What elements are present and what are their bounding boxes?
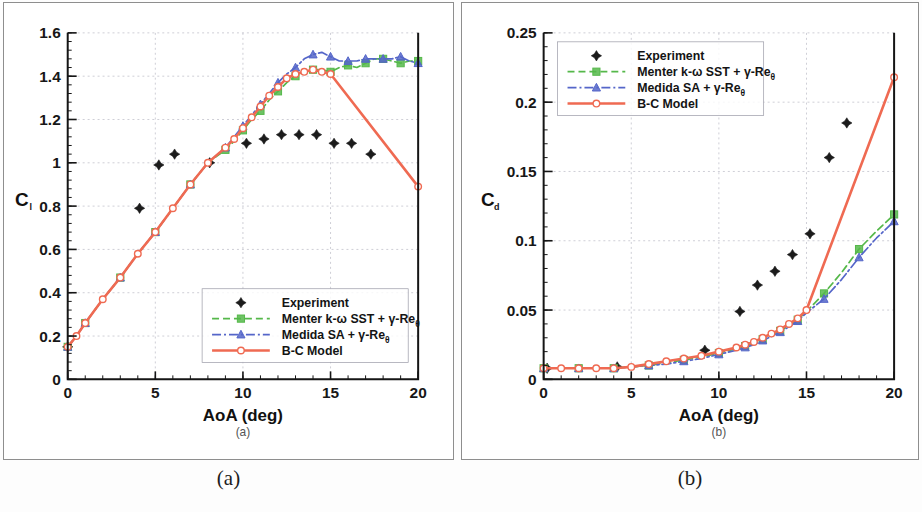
x-axis-title: AoA (deg): [679, 406, 759, 425]
y-tick-label: 0.6: [39, 241, 61, 258]
y-tick-label: 1.6: [39, 24, 61, 41]
x-tick-label: 15: [798, 384, 816, 401]
chart-legend: ExperimentMenter k-ω SST + γ-ReθMedida S…: [558, 42, 776, 116]
y-tick-label: 0.15: [507, 163, 537, 180]
x-tick-label: 0: [539, 384, 548, 401]
panel-subcaption: (b): [712, 425, 727, 439]
y-tick-label: 0.4: [39, 284, 61, 301]
svg-text:l: l: [30, 202, 32, 212]
y-tick-label: 0.1: [515, 232, 537, 249]
y-tick-label: 1: [52, 154, 61, 171]
x-tick-label: 5: [151, 384, 160, 401]
y-tick-label: 0: [528, 371, 537, 388]
y-tick-label: 0: [52, 371, 61, 388]
chart-legend: ExperimentMenter k-ω SST + γ-ReθMedida S…: [202, 289, 420, 363]
y-axis-title: Cd: [481, 189, 500, 212]
legend-label: B-C Model: [637, 97, 698, 111]
legend-label: B-C Model: [282, 344, 343, 358]
y-axis-title: Cl: [15, 189, 32, 212]
chart-panel-b: 0510152000.050.10.150.20.25AoA (deg)Cd(b…: [461, 2, 919, 460]
x-tick-label: 10: [234, 384, 251, 401]
y-tick-label: 1.2: [39, 111, 60, 128]
figure-caption-a: (a): [3, 466, 454, 491]
figure-sheet: 0510152000.20.40.60.811.21.41.6AoA (deg)…: [0, 0, 922, 512]
y-tick-label: 0.05: [507, 302, 537, 319]
y-tick-label: 0.2: [515, 94, 536, 111]
x-tick-label: 15: [322, 384, 340, 401]
figure-caption-b: (b): [461, 466, 919, 491]
chart-panel-a: 0510152000.20.40.60.811.21.41.6AoA (deg)…: [3, 2, 454, 460]
y-tick-label: 0.2: [39, 328, 60, 345]
x-tick-label: 0: [63, 384, 72, 401]
svg-text:C: C: [15, 189, 29, 210]
panel-subcaption: (a): [236, 425, 251, 439]
drag-coefficient-chart: 0510152000.050.10.150.20.25AoA (deg)Cd(b…: [462, 3, 918, 459]
plot-area-a: 0510152000.20.40.60.811.21.41.6AoA (deg)…: [4, 3, 453, 459]
svg-text:C: C: [481, 189, 495, 210]
x-axis-title: AoA (deg): [203, 406, 283, 425]
legend-label: Experiment: [282, 296, 349, 310]
legend-label: Experiment: [637, 49, 704, 63]
y-tick-label: 0.25: [507, 24, 537, 41]
svg-text:d: d: [494, 202, 499, 212]
lift-coefficient-chart: 0510152000.20.40.60.811.21.41.6AoA (deg)…: [4, 3, 453, 459]
x-tick-label: 20: [886, 384, 903, 401]
x-tick-label: 5: [627, 384, 636, 401]
x-tick-label: 20: [410, 384, 427, 401]
y-tick-label: 0.8: [39, 198, 61, 215]
y-tick-label: 1.4: [39, 68, 61, 85]
x-tick-label: 10: [710, 384, 727, 401]
plot-area-b: 0510152000.050.10.150.20.25AoA (deg)Cd(b…: [462, 3, 918, 459]
